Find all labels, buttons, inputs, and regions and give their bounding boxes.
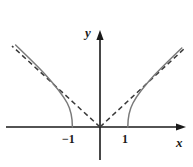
hyperbola-figure: x y −1 1 — [0, 0, 193, 167]
plot-background — [0, 0, 193, 167]
x-axis-label: x — [176, 136, 183, 149]
x-tick-label-positive-one: 1 — [122, 133, 128, 145]
y-axis-label: y — [85, 26, 91, 39]
plot-canvas — [0, 0, 193, 167]
x-tick-label-negative-one: −1 — [62, 133, 75, 145]
